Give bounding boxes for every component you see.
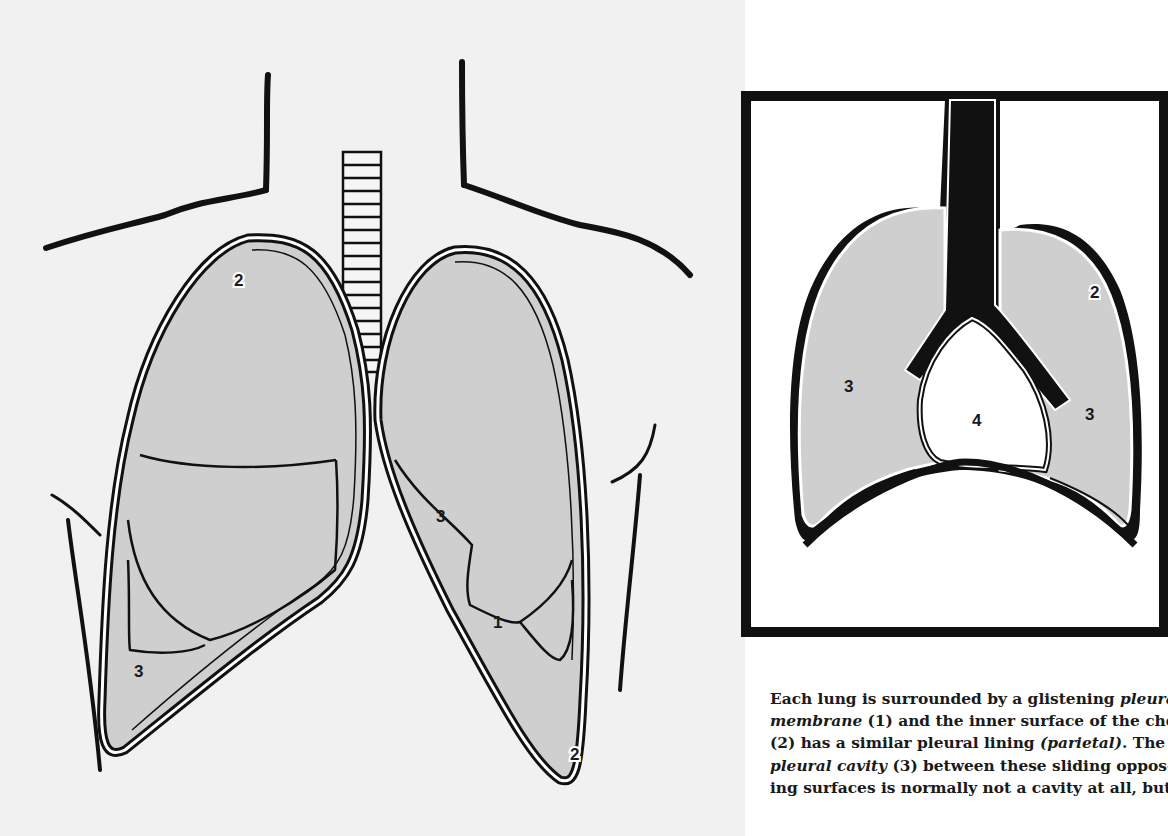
label-2-bottom: 2 — [570, 745, 579, 764]
caption-line-2: membrane (1) and the inner surface of th… — [770, 710, 1162, 732]
label-3-right: 3 — [436, 507, 445, 526]
caption-line-3: (2) has a similar pleural lining (pariet… — [770, 732, 1162, 754]
inset-label-3-right: 3 — [1085, 405, 1094, 424]
inset-label-4: 4 — [972, 411, 982, 430]
label-2-top: 2 — [234, 271, 243, 290]
label-3-left: 3 — [134, 662, 143, 681]
caption-line-5: ing surfaces is normally not a cavity at… — [770, 777, 1162, 799]
inset-label-2: 2 — [1090, 283, 1099, 302]
label-1: 1 — [493, 613, 502, 632]
figure-caption: Each lung is surrounded by a glistening … — [770, 688, 1162, 799]
caption-line-4: pleural cavity (3) between these sliding… — [770, 755, 1162, 777]
inset-label-3-left: 3 — [844, 377, 853, 396]
left-lung — [378, 250, 586, 781]
caption-line-1: Each lung is surrounded by a glistening … — [770, 688, 1162, 710]
